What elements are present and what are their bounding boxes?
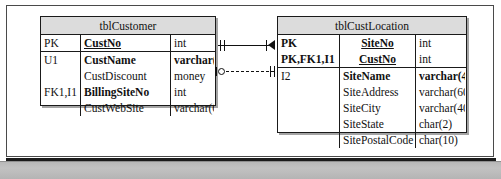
attribute-key (278, 132, 340, 148)
attribute-key: FK1,I1 (41, 84, 81, 100)
attribute-type: varchar(60) (416, 84, 465, 100)
entity-tblcustlocation[interactable]: tblCustLocation PK SiteNo int PK,FK1,I1 … (277, 16, 467, 133)
attribute-name: SiteAddress (340, 84, 416, 100)
attribute-row[interactable]: CustDiscount money (41, 68, 215, 84)
attribute-type: money (171, 68, 214, 84)
attribute-type: int (416, 35, 465, 51)
relationship-line-dashed (226, 71, 274, 72)
attribute-name: CustNo (340, 51, 416, 67)
cardinality-one-tick-icon (274, 66, 275, 77)
attribute-type: int (171, 84, 214, 100)
attribute-row[interactable]: SiteCity varchar(40) (278, 100, 466, 116)
attribute-type: varchar(60) (171, 100, 214, 116)
attribute-type: int (171, 35, 214, 51)
entity-tblcustomer[interactable]: tblCustomer PK CustNo int U1 CustName va… (40, 16, 216, 106)
attribute-name: SiteName (340, 68, 416, 84)
attribute-block-tblcustlocation: I2 SiteName varchar(40) SiteAddress varc… (278, 68, 466, 148)
attribute-name: SiteNo (340, 35, 416, 51)
attribute-type: varchar(40) (416, 68, 465, 84)
attribute-key (41, 100, 81, 116)
attribute-name: CustDiscount (81, 68, 171, 84)
attribute-key (278, 84, 340, 100)
attribute-key (41, 68, 81, 84)
attribute-row[interactable]: U1 CustName varchar(40) (41, 52, 215, 68)
cardinality-one-tick-icon (270, 66, 271, 77)
attribute-key (278, 100, 340, 116)
attribute-name: SiteState (340, 116, 416, 132)
attribute-row[interactable]: SiteAddress varchar(60) (278, 84, 466, 100)
attribute-row[interactable]: CustWebSite varchar(60) (41, 100, 215, 116)
entity-title-tblcustlocation: tblCustLocation (278, 17, 466, 35)
cardinality-one-tick-icon (224, 40, 225, 51)
attribute-key (278, 116, 340, 132)
attribute-row[interactable]: SiteState char(2) (278, 116, 466, 132)
pk-attribute-block-tblcustomer: PK CustNo int (41, 35, 215, 52)
attribute-name: CustName (81, 52, 171, 68)
attribute-key: PK,FK1,I1 (278, 51, 340, 67)
pk-attribute-block-tblcustlocation: PK SiteNo int PK,FK1,I1 CustNo int (278, 35, 466, 68)
attribute-name: SitePostalCode (340, 132, 416, 148)
cardinality-one-tick-icon (220, 40, 221, 51)
attribute-row[interactable]: PK SiteNo int (278, 35, 466, 51)
attribute-row[interactable]: FK1,I1 BillingSiteNo int (41, 84, 215, 100)
relationship-endpoint-cap (215, 67, 217, 76)
attribute-type: char(10) (416, 132, 465, 148)
attribute-row[interactable]: PK,FK1,I1 CustNo int (278, 51, 466, 67)
attribute-name: CustWebSite (81, 100, 171, 116)
attribute-name: BillingSiteNo (81, 84, 171, 100)
attribute-type: int (416, 51, 465, 67)
attribute-name: SiteCity (340, 100, 416, 116)
attribute-key: U1 (41, 52, 81, 68)
attribute-type: char(2) (416, 116, 465, 132)
attribute-type: varchar(40) (416, 100, 465, 116)
attribute-key: PK (41, 35, 81, 51)
optional-circle-icon (218, 68, 225, 75)
attribute-row[interactable]: I2 SiteName varchar(40) (278, 68, 466, 84)
entity-title-tblcustomer: tblCustomer (41, 17, 215, 35)
attribute-key: I2 (278, 68, 340, 84)
page-bottom-band (0, 161, 501, 179)
crows-foot-icon (268, 40, 275, 50)
attribute-block-tblcustomer: U1 CustName varchar(40) CustDiscount mon… (41, 52, 215, 116)
attribute-row[interactable]: SitePostalCode char(10) (278, 132, 466, 148)
attribute-type: varchar(40) (171, 52, 214, 68)
attribute-name: CustNo (81, 35, 171, 51)
attribute-row[interactable]: PK CustNo int (41, 35, 215, 51)
attribute-key: PK (278, 35, 340, 51)
cardinality-one-tick-icon (266, 40, 267, 51)
er-diagram-canvas: tblCustomer PK CustNo int U1 CustName va… (0, 0, 501, 179)
